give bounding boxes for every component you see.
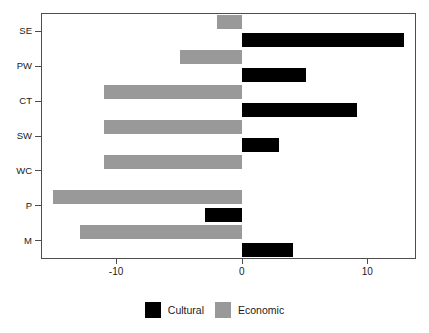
bar-m-cultural: [242, 243, 293, 257]
y-axis-tick-sw: SW: [0, 130, 41, 142]
bar-p-cultural: [205, 208, 241, 222]
legend-label: Cultural: [168, 302, 204, 318]
y-axis-tick-mark: [35, 101, 41, 102]
y-axis: SEPWCTSWWCPM: [0, 13, 41, 259]
bar-se-cultural: [242, 33, 404, 47]
y-axis-tick-label: SW: [17, 130, 32, 142]
y-axis-tick-mark: [35, 170, 41, 171]
y-axis-tick-se: SE: [0, 25, 41, 37]
y-axis-tick-m: M: [0, 235, 41, 247]
legend-item-cultural[interactable]: Cultural: [145, 302, 204, 318]
y-axis-tick-pw: PW: [0, 60, 41, 72]
x-axis-tick-mark: [367, 259, 368, 264]
y-axis-tick-mark: [35, 136, 41, 137]
x-axis-tick-mark: [116, 259, 117, 264]
bar-ct-cultural: [242, 103, 358, 117]
bar-sw-economic: [104, 120, 242, 134]
y-axis-tick-label: CT: [19, 95, 32, 107]
y-axis-tick-label: SE: [19, 25, 32, 37]
y-axis-tick-mark: [35, 240, 41, 241]
x-axis-tick-label: 10: [362, 265, 373, 278]
bar-chart: SEPWCTSWWCPM -10010 CulturalEconomic: [0, 0, 429, 333]
y-axis-tick-label: M: [24, 235, 32, 247]
y-axis-tick-mark: [35, 205, 41, 206]
x-axis-tick-label: -10: [109, 265, 123, 278]
bar-ct-economic: [104, 85, 242, 99]
bars-layer: [42, 14, 415, 258]
chart-legend: CulturalEconomic: [0, 299, 429, 321]
x-axis-tick-label: 0: [239, 265, 245, 278]
y-axis-tick-label: PW: [17, 60, 32, 72]
legend-swatch-economic: [215, 302, 231, 318]
bar-se-economic: [217, 15, 242, 29]
y-axis-tick-mark: [35, 31, 41, 32]
legend-item-economic[interactable]: Economic: [215, 302, 284, 318]
x-axis: -10010: [41, 259, 416, 285]
bar-wc-economic: [104, 155, 242, 169]
x-axis-tick-mark: [242, 259, 243, 264]
bar-m-economic: [80, 225, 242, 239]
y-axis-tick-wc: WC: [0, 165, 41, 177]
bar-p-economic: [53, 190, 241, 204]
bar-pw-cultural: [242, 68, 306, 82]
y-axis-tick-p: P: [0, 200, 41, 212]
y-axis-tick-mark: [35, 66, 41, 67]
bar-sw-cultural: [242, 138, 280, 152]
bar-pw-economic: [180, 50, 242, 64]
y-axis-tick-label: WC: [16, 165, 32, 177]
legend-swatch-cultural: [145, 302, 161, 318]
legend-label: Economic: [238, 302, 284, 318]
y-axis-tick-label: P: [26, 200, 32, 212]
y-axis-tick-ct: CT: [0, 95, 41, 107]
